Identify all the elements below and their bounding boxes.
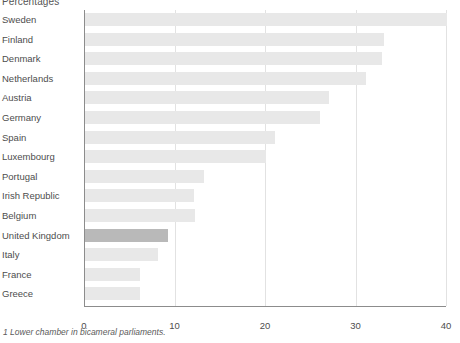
bar-spain	[85, 131, 275, 144]
bar-france	[85, 268, 140, 281]
x-tick-10: 10	[169, 320, 180, 331]
bar-sweden	[85, 13, 447, 26]
bar-germany	[85, 111, 320, 124]
bar-row: Luxembourg	[0, 148, 460, 168]
x-axis-line	[84, 306, 446, 307]
bar-row: Denmark	[0, 50, 460, 70]
bar-row: Belgium	[0, 207, 460, 227]
bar-finland	[85, 33, 384, 46]
bar-portugal	[85, 170, 204, 183]
bar-row: Netherlands	[0, 70, 460, 90]
bar-row: Portugal	[0, 168, 460, 188]
x-tick-40: 40	[441, 320, 452, 331]
bar-belgium	[85, 209, 195, 222]
bar-row: Finland	[0, 31, 460, 51]
bar-row: Spain	[0, 129, 460, 149]
bar-greece	[85, 287, 140, 300]
bar-row: Irish Republic	[0, 187, 460, 207]
bar-irish-republic	[85, 189, 194, 202]
bar-row: Italy	[0, 246, 460, 266]
bar-row: Germany	[0, 109, 460, 129]
bar-italy	[85, 248, 158, 261]
bar-denmark	[85, 52, 382, 65]
bar-row: France	[0, 266, 460, 286]
bar-row: Greece	[0, 285, 460, 305]
bar-netherlands	[85, 72, 366, 85]
bar-row: Austria	[0, 89, 460, 109]
x-tick-20: 20	[260, 320, 271, 331]
x-tick-30: 30	[350, 320, 361, 331]
footnote: 1 Lower chamber in bicameral parliaments…	[3, 327, 166, 337]
chart-plot-area: SwedenFinlandDenmarkNetherlandsAustriaGe…	[0, 10, 460, 307]
bar-row: Sweden	[0, 11, 460, 31]
bar-austria	[85, 91, 329, 104]
bar-luxembourg	[85, 150, 266, 163]
bar-united-kingdom	[85, 229, 168, 242]
page-title: Percentages	[2, 0, 59, 7]
bar-row: United Kingdom	[0, 227, 460, 247]
